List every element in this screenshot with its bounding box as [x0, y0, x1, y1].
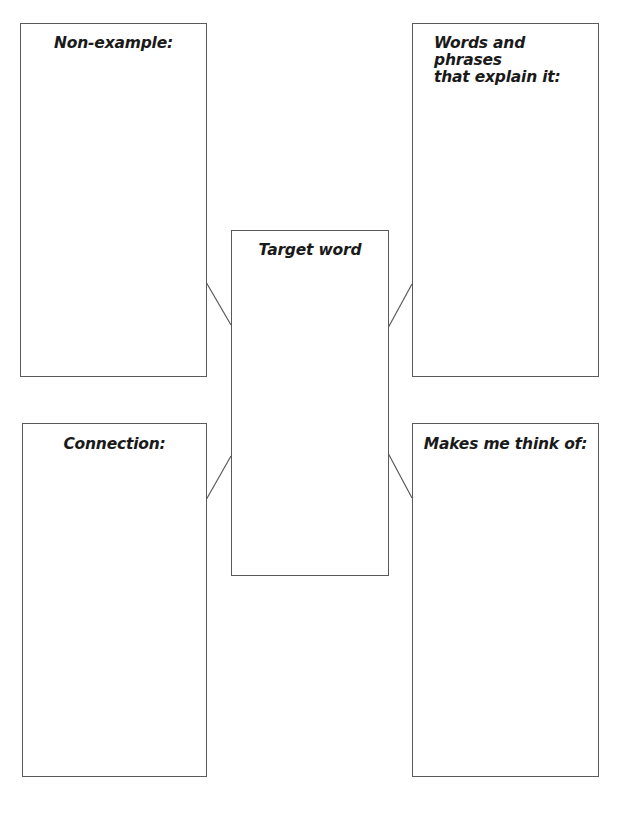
connector-bottom-right [388, 453, 412, 498]
non-example-box[interactable]: Non-example: [20, 23, 207, 377]
words-phrases-box[interactable]: Words and phrases that explain it: [412, 23, 599, 377]
makes-me-think-label: Makes me think of: [413, 436, 598, 453]
non-example-label: Non-example: [21, 35, 206, 52]
connector-top-right [388, 284, 412, 328]
target-word-label: Target word [232, 242, 388, 259]
connection-label: Connection: [23, 436, 206, 453]
words-phrases-label-line1: Words and phrases [434, 35, 598, 69]
words-phrases-label-line2: that explain it: [434, 69, 598, 86]
target-word-box[interactable]: Target word [231, 230, 389, 576]
connector-top-left [206, 282, 231, 325]
connector-bottom-left [206, 456, 231, 500]
connection-box[interactable]: Connection: [22, 423, 207, 777]
words-phrases-label: Words and phrases that explain it: [413, 35, 598, 86]
makes-me-think-box[interactable]: Makes me think of: [412, 423, 599, 777]
